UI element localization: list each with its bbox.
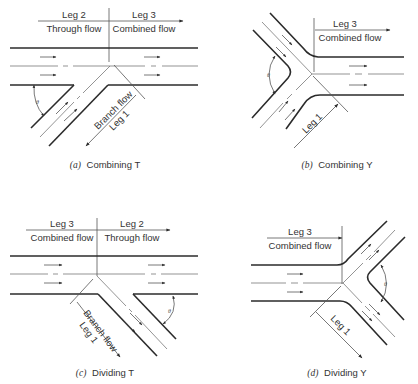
pipe-junction-figure: Leg 2 Through flow Leg 3 Combined flow θ…	[0, 0, 418, 384]
caption-dividing-y: (d) Dividing Y	[307, 367, 367, 379]
combined-flow-label: Combined flow	[319, 32, 382, 43]
panel-combining-y: Leg 3 Combined flow θ Leg 1 (b) Combinin…	[252, 13, 404, 171]
panel-combining-t: Leg 2 Through flow Leg 3 Combined flow θ…	[10, 8, 198, 171]
caption-combining-t: (a) Combining T	[70, 159, 141, 171]
panel-dividing-t: Leg 3 Combined flow Leg 2 Through flow θ…	[10, 218, 198, 379]
branch-reference-line	[313, 76, 348, 112]
theta-label: θ	[384, 281, 387, 287]
through-flow-label: Through flow	[47, 23, 102, 34]
through-flow-label: Through flow	[105, 232, 160, 243]
branch-pipe-right-wall	[133, 294, 176, 339]
panel-dividing-y: Leg 3 Combined flow θ Leg 1 (d) Dividing…	[251, 221, 405, 379]
flow-arrow	[282, 35, 292, 45]
caption-combining-y: (b) Combining Y	[302, 159, 374, 171]
theta-label: θ	[267, 72, 270, 78]
theta-label: θ	[36, 99, 39, 105]
leg-3-label: Leg 3	[50, 218, 74, 229]
branch-reference-line	[70, 279, 93, 304]
leg-2-label: Leg 2	[62, 9, 86, 20]
leg-3-label: Leg 3	[132, 9, 156, 20]
combined-flow-label: Combined flow	[269, 240, 332, 251]
combined-flow-label: Combined flow	[31, 232, 94, 243]
flow-arrow	[369, 304, 380, 315]
leg-1-label: Leg 1	[300, 111, 325, 136]
leg-3-label: Leg 3	[288, 226, 312, 237]
theta-label: θ	[168, 308, 171, 314]
leg-2-label: Leg 2	[120, 218, 144, 229]
flow-arrow	[56, 102, 68, 114]
leg-1-label: Leg 1	[329, 313, 354, 338]
leg-3-label: Leg 3	[333, 18, 357, 29]
flow-arrow	[279, 101, 288, 112]
caption-dividing-t: (c) Dividing T	[76, 367, 134, 379]
flow-arrow	[130, 313, 142, 325]
flow-arrow	[122, 320, 135, 332]
combined-flow-label: Combined flow	[113, 23, 176, 34]
